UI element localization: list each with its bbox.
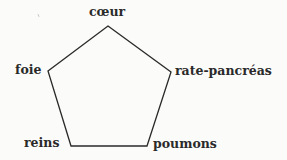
label-reins: reins (24, 137, 59, 150)
label-foie: foie (15, 64, 41, 77)
pentagon-diagram: cœur foie rate-pancréas reins poumons (0, 0, 287, 160)
label-poumons: poumons (153, 138, 217, 151)
pentagon-outline (48, 26, 171, 146)
label-coeur: cœur (89, 6, 125, 19)
label-rate-pancreas: rate-pancréas (175, 65, 272, 78)
